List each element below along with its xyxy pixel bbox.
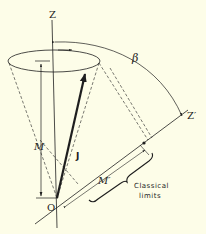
j-vector [57,74,85,198]
beta-label: β [131,52,138,65]
angular-momentum-diagram: Z β Z′ J M M′ [0,0,206,234]
m-label: M [33,141,45,152]
beta-angle-arc [55,42,182,116]
m-prime-label: M′ [97,175,111,186]
projection-lines [40,63,152,184]
classical-limits-label-line1: Classical [134,182,169,190]
precession-ellipse [8,50,100,72]
cone-edges [9,63,99,198]
z-prime-axis-label: Z′ [187,110,197,121]
z-axis-label: Z [49,9,56,20]
classical-limits-label-line2: limits [139,192,161,200]
j-vector-label: J [75,151,79,161]
z-prime-axis [35,110,188,224]
origin-label: O [47,202,55,213]
